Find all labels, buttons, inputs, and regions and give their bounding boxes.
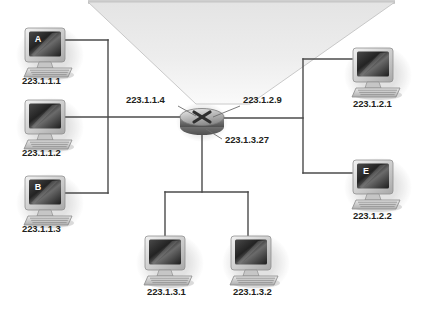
ip-address-label: 223.1.3.2 xyxy=(233,286,272,297)
ip-address-label: 223.1.2.1 xyxy=(353,98,393,109)
ip-address-label: 223.1.1.3 xyxy=(22,223,61,234)
host-badge: E xyxy=(363,166,369,176)
network-diagram: ABE 223.1.1.4223.1.2.9223.1.3.27 223.1.1… xyxy=(0,0,421,311)
host-badge: A xyxy=(35,34,42,44)
router-interface-label: 223.1.2.9 xyxy=(243,94,282,105)
ip-address-label: 223.1.3.1 xyxy=(147,286,187,297)
diagram-canvas: ABE 223.1.1.4223.1.2.9223.1.3.27 223.1.1… xyxy=(0,0,421,311)
ip-address-label: 223.1.2.2 xyxy=(353,210,392,221)
ip-address-label: 223.1.1.2 xyxy=(22,147,61,158)
router-interface-label: 223.1.3.27 xyxy=(225,134,269,145)
router-interface-label: 223.1.1.4 xyxy=(126,94,166,105)
router-icon[interactable] xyxy=(180,109,224,136)
ip-address-label: 223.1.1.1 xyxy=(22,75,62,86)
host-badge: B xyxy=(35,182,42,192)
